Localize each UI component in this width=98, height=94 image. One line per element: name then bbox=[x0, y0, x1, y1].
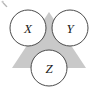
circle-x-label: X bbox=[23, 21, 33, 36]
node-group-x[interactable]: X bbox=[10, 10, 46, 46]
scan-speck-dot bbox=[1, 1, 3, 3]
scan-speck bbox=[3, 2, 8, 7]
circle-z-label: Z bbox=[45, 61, 53, 76]
node-group-y[interactable]: Y bbox=[52, 10, 88, 46]
node-group-z[interactable]: Z bbox=[31, 50, 67, 86]
venn-diagram-figure: X Y Z bbox=[0, 0, 98, 94]
venn-diagram-canvas: X Y Z bbox=[0, 0, 98, 94]
